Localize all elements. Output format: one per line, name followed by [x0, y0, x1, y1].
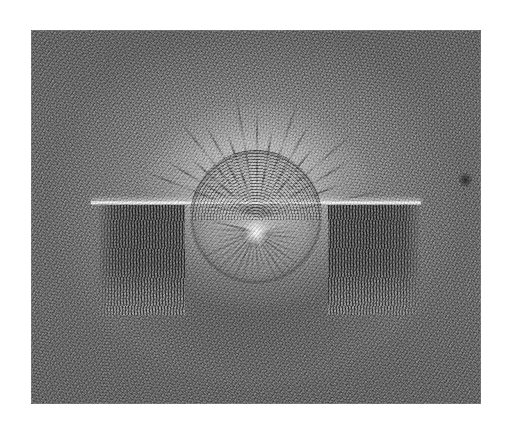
photo-subject-text: Electric field lines revealed by fine pa…	[0, 0, 1, 1]
dense-particle-band-right	[328, 205, 420, 315]
emulsion-blemish	[457, 170, 474, 189]
band-texture-right	[328, 205, 420, 315]
band-texture-left	[99, 205, 185, 315]
circular-electrode-disc	[190, 150, 322, 284]
page-root: Electric field lines revealed by fine pa…	[0, 0, 509, 431]
photograph	[31, 30, 481, 404]
dense-particle-band-left	[99, 205, 185, 315]
